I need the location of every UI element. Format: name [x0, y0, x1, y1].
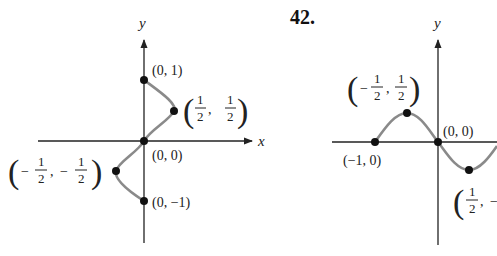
svg-text:−: −	[360, 81, 368, 96]
svg-text:,: ,	[50, 164, 54, 179]
svg-text:1: 1	[197, 92, 204, 107]
svg-text:2: 2	[374, 88, 381, 103]
svg-text:2: 2	[197, 109, 204, 124]
label-0-neg1: (0, −1)	[152, 195, 191, 211]
svg-text:1: 1	[78, 154, 85, 169]
point-neg1-0	[371, 138, 379, 146]
figure-canvas: y x (0, 1) (0, 0) (0, −1) ( 1 2 , 1 2 ) …	[0, 0, 497, 256]
label-half-neg-half: ( 1 2 , −	[453, 183, 497, 221]
point-neg-half-half	[403, 109, 411, 117]
point-half-neg-half	[465, 166, 473, 174]
svg-text:): )	[409, 70, 420, 108]
svg-text:): )	[91, 153, 102, 191]
svg-text:2: 2	[227, 109, 234, 124]
point-half-half	[170, 107, 178, 115]
label-origin-left: (0, 0)	[152, 148, 183, 164]
svg-text:1: 1	[398, 71, 405, 86]
point-0-neg1	[140, 197, 148, 205]
label-neg-half-half: ( − 1 2 , 1 2 )	[347, 70, 420, 108]
left-y-axis-label: y	[137, 15, 146, 31]
svg-text:2: 2	[38, 171, 45, 186]
left-x-axis-label: x	[257, 133, 265, 149]
svg-text:2: 2	[469, 201, 476, 216]
svg-text:1: 1	[38, 154, 45, 169]
label-neg1-0: (−1, 0)	[343, 153, 382, 169]
svg-text:(: (	[453, 183, 464, 221]
svg-text:2: 2	[398, 88, 405, 103]
label-origin-right: (0, 0)	[443, 124, 474, 140]
svg-text:−: −	[490, 194, 497, 209]
svg-text:(: (	[347, 70, 358, 108]
label-half-half: ( 1 2 , 1 2 )	[183, 92, 248, 130]
left-graph: y x (0, 1) (0, 0) (0, −1) ( 1 2 , 1 2 ) …	[8, 15, 265, 243]
point-0-1	[140, 76, 148, 84]
point-origin-right	[434, 138, 442, 146]
label-0-1: (0, 1)	[152, 63, 183, 79]
right-graph: y (−1, 0) (0, 0) ( − 1 2 , 1 2 ) ( 1 2 ,…	[332, 15, 497, 245]
svg-text:,: ,	[208, 102, 212, 117]
svg-text:2: 2	[78, 171, 85, 186]
svg-text:,: ,	[386, 81, 390, 96]
point-origin-left	[140, 137, 148, 145]
svg-text:,: ,	[480, 194, 484, 209]
problem-number: 42.	[290, 6, 315, 28]
svg-text:1: 1	[374, 71, 381, 86]
svg-text:1: 1	[469, 184, 476, 199]
svg-text:): )	[237, 92, 248, 130]
svg-text:1: 1	[227, 92, 234, 107]
svg-text:−: −	[21, 164, 29, 179]
svg-text:(: (	[183, 92, 194, 130]
right-y-axis-label: y	[432, 15, 441, 31]
svg-text:(: (	[8, 153, 19, 191]
point-neg-half-neg-half	[112, 167, 120, 175]
svg-text:−: −	[60, 164, 68, 179]
label-neg-half-neg-half: ( − 1 2 , − 1 2 )	[8, 153, 102, 191]
